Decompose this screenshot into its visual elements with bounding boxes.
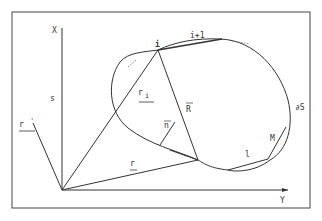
y-axis-arrow-icon bbox=[282, 188, 288, 192]
vector-r-i bbox=[62, 50, 158, 190]
label-r-prime-sup: ' bbox=[30, 117, 34, 125]
vector-r-prime bbox=[33, 123, 62, 190]
label-n: n bbox=[164, 121, 169, 130]
x-axis-label: X bbox=[52, 26, 57, 35]
dotted-segment-2 bbox=[128, 60, 136, 67]
label-l: l bbox=[245, 150, 250, 159]
label-M: M bbox=[270, 134, 275, 143]
label-R: R bbox=[186, 105, 191, 114]
label-point-i: i bbox=[155, 39, 160, 49]
label-r-i-sub: i bbox=[145, 92, 149, 100]
label-point-i-plus-1: i+1 bbox=[190, 31, 205, 40]
label-r: r bbox=[130, 159, 135, 168]
label-boundary: ∂S bbox=[295, 103, 305, 112]
y-axis-label: Y bbox=[280, 196, 285, 205]
vector-R bbox=[158, 50, 198, 160]
label-s: s bbox=[50, 94, 55, 103]
label-r-prime: r bbox=[19, 120, 24, 129]
element-chord-l bbox=[228, 159, 268, 170]
label-r-i: r bbox=[138, 88, 143, 97]
boundary-curve bbox=[111, 39, 290, 171]
element-chord-lower bbox=[170, 150, 198, 160]
boundary-element-diagram: X Y i i+1 r i R n r r ' M l s ∂S bbox=[0, 0, 322, 221]
